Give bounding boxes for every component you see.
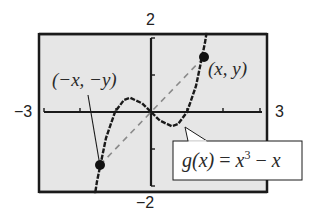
rhs-tail: − x bbox=[255, 149, 280, 171]
x-min-label: −3 bbox=[14, 103, 32, 121]
rhs-exponent: 3 bbox=[244, 148, 250, 162]
y-max-label: 2 bbox=[146, 11, 155, 29]
x-max-label: 3 bbox=[275, 103, 284, 121]
graph-canvas bbox=[0, 0, 319, 223]
point-label-pos: (x, y) bbox=[208, 58, 247, 80]
function-equation: g(x) = x3 − x bbox=[182, 148, 281, 172]
y-min-label: −2 bbox=[136, 194, 154, 212]
point-label-neg: (−x, −y) bbox=[52, 69, 117, 91]
point-neg-x-neg-y bbox=[95, 160, 105, 170]
function-name: g(x) bbox=[182, 149, 214, 171]
equals-sign: = bbox=[219, 149, 230, 171]
rhs-tail-variable: x bbox=[272, 149, 281, 171]
